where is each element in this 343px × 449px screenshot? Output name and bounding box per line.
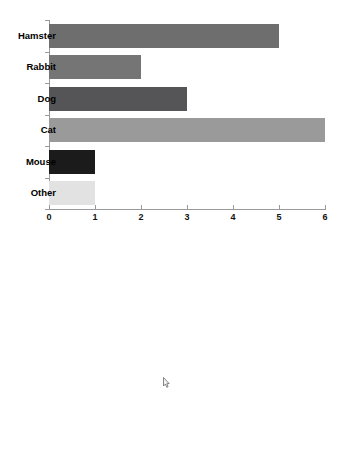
x-tick <box>279 205 280 210</box>
category-label-mouse: Mouse <box>26 157 56 167</box>
category-label-other: Other <box>31 188 56 198</box>
x-tick-label: 4 <box>230 213 235 222</box>
bar-rabbit <box>49 55 141 79</box>
x-tick-label: 6 <box>322 213 327 222</box>
y-tick <box>45 146 50 147</box>
category-label-hamster: Hamster <box>18 31 56 41</box>
bar-cat <box>49 118 325 142</box>
x-tick-label: 5 <box>276 213 281 222</box>
bar-dog <box>49 87 187 111</box>
x-tick <box>141 205 142 210</box>
x-tick <box>233 205 234 210</box>
x-tick-label: 0 <box>46 213 51 222</box>
x-tick-label: 2 <box>138 213 143 222</box>
y-tick <box>45 209 50 210</box>
x-tick <box>95 205 96 210</box>
x-tick-label: 3 <box>184 213 189 222</box>
category-label-dog: Dog <box>38 94 56 104</box>
category-label-cat: Cat <box>41 125 56 135</box>
y-tick <box>45 83 50 84</box>
y-tick <box>45 178 50 179</box>
bar-hamster <box>49 24 279 48</box>
category-label-rabbit: Rabbit <box>26 62 56 72</box>
y-tick <box>45 115 50 116</box>
x-tick-label: 1 <box>92 213 97 222</box>
vertical-bar-chart: 0123456 HamsterRabbitDogCatMouseOther <box>0 230 343 449</box>
y-tick <box>45 20 50 21</box>
y-tick <box>45 52 50 53</box>
x-tick <box>325 205 326 210</box>
x-tick <box>187 205 188 210</box>
horizontal-bar-chart: HamsterRabbitDogCatMouseOther 0123456 <box>0 0 343 228</box>
